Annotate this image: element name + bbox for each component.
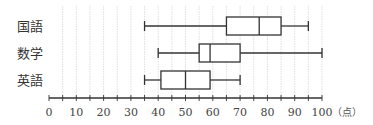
x-tick-label: 80 [260, 106, 274, 119]
box-iqr [226, 17, 281, 35]
box-plot-1 [145, 17, 309, 35]
category-label: 国語 [17, 19, 43, 34]
category-labels: 国語数学英語 [17, 19, 43, 88]
x-tick-label: 20 [97, 106, 111, 119]
category-label: 英語 [17, 73, 43, 88]
unit-label: （点） [332, 107, 362, 118]
category-label: 数学 [17, 46, 43, 61]
x-tick-label: 70 [233, 106, 247, 119]
boxplot-chart: 0102030405060708090100 国語数学英語 （点） [0, 0, 373, 125]
box-plot-2 [158, 44, 322, 62]
box-plot-3 [145, 71, 241, 89]
x-tick-label: 100 [312, 106, 333, 119]
x-tick-label: 0 [46, 106, 53, 119]
x-tick-label: 60 [206, 106, 220, 119]
x-tick-label: 40 [151, 106, 165, 119]
box-series [145, 17, 322, 89]
x-tick-label: 90 [288, 106, 302, 119]
x-tick-label: 50 [179, 106, 193, 119]
x-tick-label: 30 [124, 106, 138, 119]
box-iqr [199, 44, 240, 62]
x-axis: 0102030405060708090100 [46, 95, 333, 119]
x-tick-label: 10 [69, 106, 83, 119]
